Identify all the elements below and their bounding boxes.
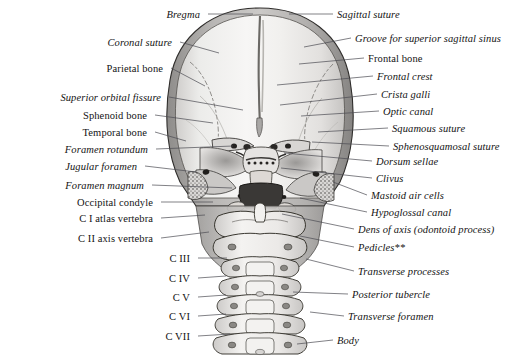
label-bregma: Bregma <box>167 9 200 20</box>
label-temporal-bone: Temporal bone <box>83 127 147 138</box>
label-c3: C III <box>169 253 190 264</box>
label-groove-sup-sagittal-sinus: Groove for superior sagittal sinus <box>355 33 501 44</box>
cranium-group <box>167 8 353 215</box>
label-foramen-magnum: Foramen magnum <box>65 180 144 191</box>
label-sphenoid-bone: Sphenoid bone <box>83 110 147 121</box>
label-dorsum-sellae: Dorsum sellae <box>376 156 438 167</box>
transverse-foramen-shape <box>230 303 237 309</box>
label-posterior-tubercle: Posterior tubercle <box>352 289 430 300</box>
label-pedicles: Pedicles** <box>358 242 405 253</box>
label-sagittal-suture: Sagittal suture <box>337 9 400 20</box>
label-crista-galli: Crista galli <box>381 89 430 100</box>
vertebral-body-c5 <box>246 300 274 315</box>
anatomical-figure: BregmaCoronal sutureParietal boneSuperio… <box>0 0 528 361</box>
label-transverse-foramen: Transverse foramen <box>348 311 434 322</box>
label-frontal-bone: Frontal bone <box>368 53 423 64</box>
label-foramen-rotundum: Foramen rotundum <box>65 144 148 155</box>
label-c6: C VI <box>169 311 190 322</box>
label-body: Body <box>337 335 359 346</box>
label-optic-canal: Optic canal <box>383 106 433 117</box>
label-c1-atlas: C I atlas vertebra <box>79 213 153 224</box>
label-parietal-bone: Parietal bone <box>107 63 163 74</box>
label-c2-axis: C II axis vertebra <box>78 233 153 244</box>
label-c7: C VII <box>165 331 190 342</box>
label-c4: C IV <box>169 273 190 284</box>
label-frontal-crest: Frontal crest <box>377 71 433 82</box>
label-coronal-suture: Coronal suture <box>107 37 172 48</box>
c5-shape <box>217 295 303 315</box>
foramen-rotundum-shape <box>231 143 237 148</box>
transverse-foramen-c2 <box>228 244 236 250</box>
label-dens-of-axis: Dens of axis (odontoid process) <box>358 224 494 235</box>
label-sphenosquamosal-suture: Sphenosquamosal suture <box>393 141 500 152</box>
c6-shape <box>215 314 305 334</box>
label-squamous-suture: Squamous suture <box>392 123 465 134</box>
posterior-tubercle-shape <box>256 292 264 297</box>
label-occipital-condyle: Occipital condyle <box>77 197 153 208</box>
label-hypoglossal-canal: Hypoglossal canal <box>371 207 451 218</box>
vertebral-body-c3 <box>246 262 274 277</box>
dens-of-axis-shape <box>254 203 265 222</box>
label-c5: C V <box>173 292 190 303</box>
c3-shape <box>221 257 299 277</box>
label-jugular-foramen: Jugular foramen <box>65 161 137 172</box>
label-superior-orbital-fissure: Superior orbital fissure <box>60 92 161 103</box>
label-transverse-processes: Transverse processes <box>358 266 449 277</box>
label-mastoid-air-cells: Mastoid air cells <box>371 190 444 201</box>
label-clivus: Clivus <box>376 173 403 184</box>
vertebral-body-c6 <box>246 319 274 334</box>
